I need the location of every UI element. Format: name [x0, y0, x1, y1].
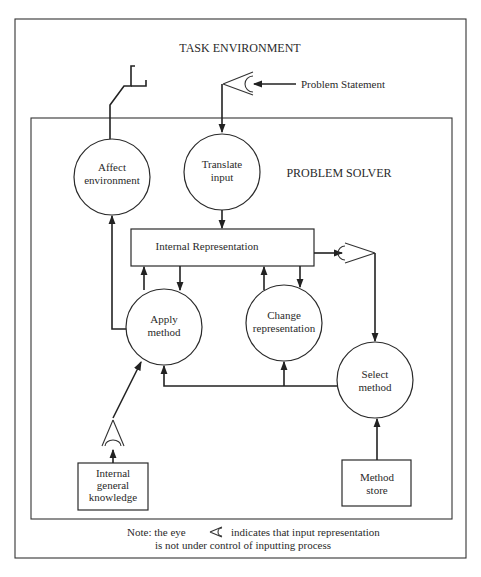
- affect-line2: environment: [84, 174, 140, 186]
- problem-statement-label: Problem Statement: [301, 78, 385, 90]
- note-line2: is not under control of inputting proces…: [155, 539, 331, 551]
- select-method-node: [337, 342, 413, 418]
- note-prefix: Note: the eye: [127, 526, 186, 538]
- select-line2: method: [359, 381, 392, 393]
- change-line2: representation: [253, 322, 316, 334]
- note-suffix: indicates that input representation: [231, 526, 380, 538]
- knowledge-line1: Internal: [96, 467, 130, 479]
- problem-solver-diagram: TASK ENVIRONMENT PROBLEM SOLVER Problem …: [0, 0, 481, 577]
- apply-line2: method: [148, 326, 181, 338]
- problem-solver-label: PROBLEM SOLVER: [286, 166, 391, 180]
- effector-icon: [110, 66, 146, 139]
- eye-icon-top: [223, 72, 253, 95]
- store-line1: Method: [360, 471, 395, 483]
- change-line1: Change: [267, 309, 301, 321]
- apply-line1: Apply: [150, 313, 178, 325]
- translate-line1: Translate: [202, 158, 243, 170]
- affect-line1: Affect: [98, 161, 126, 173]
- knowledge-line3: knowledge: [89, 491, 137, 503]
- store-line2: store: [366, 484, 388, 496]
- eye-icon-bottom-left: [102, 420, 124, 446]
- method-store-node: [342, 460, 411, 506]
- eye-icon-note: [210, 527, 222, 537]
- select-line1: Select: [362, 368, 389, 380]
- internal-representation-label: Internal Representation: [156, 240, 259, 252]
- knowledge-line2: general: [97, 479, 129, 491]
- task-environment-label: TASK ENVIRONMENT: [179, 41, 301, 55]
- translate-line2: input: [211, 171, 234, 183]
- eye-icon-right: [338, 243, 375, 263]
